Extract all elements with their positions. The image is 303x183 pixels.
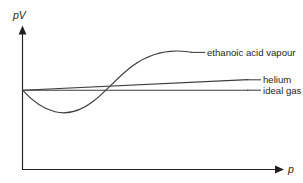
series-label-ideal-gas: ideal gas <box>263 85 302 96</box>
pv-vs-p-chart: pV p ethanoic acid vapour helium ideal g… <box>0 0 303 183</box>
x-axis-arrowhead-icon <box>275 166 284 174</box>
y-axis-arrowhead-icon <box>19 26 27 35</box>
series-label-helium: helium <box>263 74 291 85</box>
y-axis-label: pV <box>12 9 27 21</box>
x-axis-label: p <box>287 163 294 175</box>
series-line-ethanoic-acid-vapour <box>23 51 192 113</box>
series-line-helium <box>23 80 249 91</box>
series-label-ethanoic-acid-vapour: ethanoic acid vapour <box>207 47 296 58</box>
